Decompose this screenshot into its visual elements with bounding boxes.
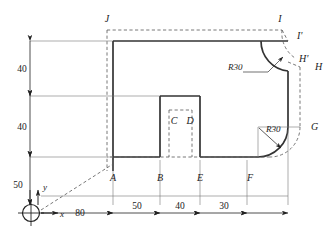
origin-marker: [18, 190, 58, 226]
hidden-arc-top: [282, 30, 295, 58]
dim-label-v-50: 50: [13, 180, 23, 190]
radius-label-top: R30: [227, 62, 243, 72]
radius-leader-top: [243, 57, 283, 72]
point-label-H: H: [314, 61, 323, 72]
point-label-H-prime: H': [298, 53, 309, 64]
point-label-C: C: [171, 115, 178, 126]
point-label-G: G: [311, 121, 318, 132]
x-axis-label: x: [59, 209, 64, 219]
leader-origin-to-a: [41, 164, 113, 210]
point-label-I: I: [277, 13, 282, 24]
point-label-I-prime: I': [296, 30, 303, 41]
point-label-D: D: [185, 115, 194, 126]
hidden-line-i-tick: [282, 30, 288, 41]
dim-label-h-40: 40: [175, 201, 185, 211]
dim-label-v-40-upper: 40: [17, 64, 27, 74]
outline-top-fillet-arc: [261, 41, 288, 71]
point-label-B: B: [157, 172, 163, 183]
technical-drawing-svg: J I I' H' H G A B E F C D R30 R30 40 40 …: [0, 0, 329, 249]
radius-leaders: [243, 57, 283, 148]
dim-label-h-50: 50: [132, 201, 142, 211]
point-label-E: E: [196, 172, 203, 183]
point-label-J: J: [105, 13, 110, 24]
dim-label-h-30: 30: [219, 201, 229, 211]
part-outline: [113, 41, 288, 171]
y-axis-label: y: [42, 182, 47, 192]
radius-label-bottom: R30: [265, 124, 281, 134]
extension-lines: [30, 41, 300, 205]
dim-label-h-80: 80: [75, 208, 85, 218]
point-label-F: F: [246, 172, 254, 183]
drawing-canvas: J I I' H' H G A B E F C D R30 R30 40 40 …: [0, 0, 329, 249]
dim-label-v-40-lower: 40: [17, 122, 27, 132]
point-label-A: A: [109, 172, 117, 183]
